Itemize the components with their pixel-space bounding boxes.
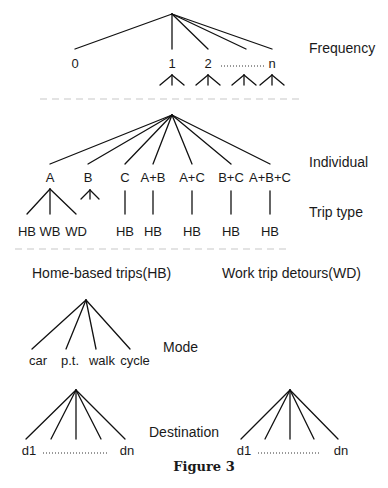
individual-node-label: C bbox=[120, 170, 129, 185]
frequency-edge bbox=[172, 14, 246, 49]
trip-type-tree: HBWBWDHBHBHBHBHB bbox=[18, 189, 279, 239]
destination-edge bbox=[241, 390, 290, 439]
destination-label-last: dn bbox=[120, 443, 134, 458]
destination-edge bbox=[51, 390, 76, 439]
individual-edge bbox=[172, 115, 270, 164]
caret-edge bbox=[208, 75, 220, 85]
destination-edge bbox=[290, 390, 338, 439]
destination-label-last: dn bbox=[334, 443, 348, 458]
caret-edge bbox=[90, 190, 99, 199]
level-label-mode: Mode bbox=[163, 339, 198, 355]
caret-edge bbox=[172, 75, 184, 85]
figure-caption: Figure 3 bbox=[173, 459, 234, 474]
caret-edge bbox=[232, 75, 244, 85]
frequency-edge bbox=[172, 14, 272, 49]
level-label-trip-type: Trip type bbox=[309, 204, 363, 220]
caret-edge bbox=[244, 75, 256, 85]
section-home-based-trips: Home-based trips(HB) bbox=[32, 265, 171, 281]
trip-type-label: HB bbox=[18, 224, 36, 239]
frequency-node-label: 2 bbox=[204, 56, 211, 71]
mode-node-label: car bbox=[29, 353, 48, 368]
mode-node-label: cycle bbox=[120, 353, 150, 368]
level-label-destination: Destination bbox=[149, 424, 219, 440]
frequency-tree: 012n bbox=[71, 14, 284, 85]
caret-edge bbox=[272, 75, 284, 85]
mode-edge bbox=[66, 300, 86, 349]
frequency-edge bbox=[172, 14, 208, 49]
frequency-node-label: n bbox=[268, 56, 275, 71]
trip-type-label: HB bbox=[144, 224, 162, 239]
mode-edge bbox=[86, 300, 130, 349]
mode-edge bbox=[32, 300, 86, 349]
trip-type-label: WB bbox=[40, 224, 61, 239]
caret-edge bbox=[260, 75, 272, 85]
individual-edge bbox=[125, 115, 172, 164]
trip-type-edge bbox=[50, 189, 76, 214]
individual-node-label: A+B+C bbox=[249, 170, 291, 185]
individual-node-label: A bbox=[46, 170, 55, 185]
section-work-trip-detours: Work trip detours(WD) bbox=[222, 265, 361, 281]
mode-edge bbox=[86, 300, 96, 349]
trip-type-edge bbox=[27, 189, 50, 214]
individual-edge bbox=[88, 115, 172, 164]
level-label-frequency: Frequency bbox=[309, 40, 375, 56]
individual-edge bbox=[172, 115, 192, 164]
destination-edge bbox=[265, 390, 290, 439]
individual-node-label: B bbox=[84, 170, 93, 185]
trip-type-label: HB bbox=[261, 224, 279, 239]
destination-label-first: d1 bbox=[22, 443, 36, 458]
decision-tree-diagram: 012n Frequency ABCA+BA+CB+CA+B+C Individ… bbox=[0, 0, 388, 488]
individual-edge bbox=[153, 115, 172, 164]
caret-edge bbox=[196, 75, 208, 85]
caret-edge bbox=[160, 75, 172, 85]
frequency-edge bbox=[75, 14, 172, 49]
individual-edge bbox=[50, 115, 172, 164]
mode-node-label: p.t. bbox=[61, 353, 79, 368]
destination-edge bbox=[290, 390, 314, 439]
trip-type-label: WD bbox=[65, 224, 87, 239]
frequency-node-label: 0 bbox=[71, 56, 78, 71]
frequency-node-label: 1 bbox=[168, 56, 175, 71]
mode-node-label: walk bbox=[88, 353, 116, 368]
destination-label-first: d1 bbox=[237, 443, 251, 458]
destination-edge bbox=[76, 390, 101, 439]
level-label-individual: Individual bbox=[309, 154, 368, 170]
individual-tree: ABCA+BA+CB+CA+B+C bbox=[46, 115, 291, 185]
individual-node-label: A+B bbox=[141, 170, 166, 185]
caret-edge bbox=[81, 190, 90, 199]
mode-tree: carp.t.walkcycle bbox=[29, 300, 150, 368]
trip-type-label: HB bbox=[183, 224, 201, 239]
individual-node-label: B+C bbox=[218, 170, 244, 185]
destination-edge bbox=[26, 390, 76, 439]
destination-edge bbox=[76, 390, 125, 439]
trip-type-label: HB bbox=[222, 224, 240, 239]
individual-node-label: A+C bbox=[179, 170, 205, 185]
trip-type-label: HB bbox=[116, 224, 134, 239]
